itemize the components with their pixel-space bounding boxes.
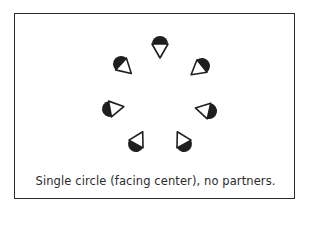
dancer-icon <box>110 53 137 80</box>
dancer-icon <box>125 128 150 155</box>
dancer-icon <box>101 99 125 119</box>
dancer-icon <box>186 55 213 81</box>
dancer-icon <box>170 128 195 155</box>
diagram-caption: Single circle (facing center), no partne… <box>14 174 297 188</box>
dancer-icon <box>194 100 219 120</box>
dancer-icon <box>152 36 168 58</box>
